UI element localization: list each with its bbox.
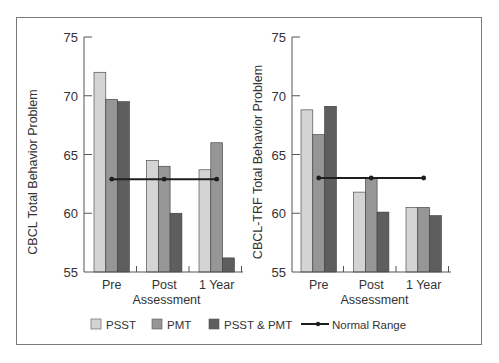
y-axis-title: CBCL-TRF Total Behavior Problem: [251, 65, 265, 259]
x-tick-label: Pre: [102, 278, 122, 292]
chart-legend: PSSTPMTPSST & PMTNormal Range: [91, 319, 406, 331]
bar-psst-pmt-pre: [325, 106, 337, 272]
y-tick-label: 65: [272, 148, 286, 163]
legend-swatch-psst: [91, 319, 101, 329]
normal-range-marker: [316, 176, 321, 181]
chart-panel-cbcl-trf: PrePost1 Year5560657075CBCL-TRF Total Be…: [251, 30, 451, 307]
bar-pmt-post: [158, 166, 170, 272]
legend-marker-icon: [316, 322, 320, 326]
x-tick-label: Post: [359, 278, 385, 292]
bar-psst-1-year: [199, 170, 211, 272]
bar-pmt-1-year: [418, 207, 430, 272]
bar-pmt-1-year: [211, 143, 223, 272]
bar-psst-post: [354, 192, 366, 272]
figure-svg: PrePost1 Year5560657075CBCL Total Behavi…: [0, 0, 499, 363]
chart-panel-cbcl: PrePost1 Year5560657075CBCL Total Behavi…: [26, 30, 243, 307]
bar-psst-pmt-post: [170, 213, 182, 272]
normal-range-marker: [162, 177, 167, 182]
y-tick-label: 70: [64, 89, 78, 104]
legend-label: Normal Range: [332, 319, 406, 331]
x-axis-title: Assessment: [340, 293, 409, 307]
bar-pmt-pre: [313, 135, 325, 272]
legend-swatch-pmt: [152, 319, 162, 329]
x-tick-label: 1 Year: [406, 278, 441, 292]
y-tick-label: 75: [64, 30, 78, 45]
y-tick-label: 70: [272, 89, 286, 104]
x-axis-title: Assessment: [132, 293, 201, 307]
bar-psst-pmt-1-year: [223, 258, 235, 272]
y-tick-label: 55: [272, 265, 286, 280]
bar-psst-pmt-1-year: [430, 216, 442, 272]
bar-psst-pmt-pre: [118, 102, 130, 272]
legend-label: PSST & PMT: [224, 319, 292, 331]
normal-range-marker: [369, 176, 374, 181]
legend-label: PMT: [167, 319, 191, 331]
normal-range-marker: [421, 176, 426, 181]
legend-label: PSST: [106, 319, 136, 331]
bar-psst-post: [147, 160, 159, 272]
y-tick-label: 60: [64, 206, 78, 221]
y-tick-label: 55: [64, 265, 78, 280]
legend-swatch-psst-pmt: [209, 319, 219, 329]
normal-range-marker: [109, 177, 114, 182]
y-tick-label: 75: [272, 30, 286, 45]
y-tick-label: 65: [64, 148, 78, 163]
x-tick-label: Post: [152, 278, 178, 292]
x-tick-label: 1 Year: [199, 278, 234, 292]
bar-psst-pre: [94, 72, 106, 272]
normal-range-marker: [214, 177, 219, 182]
bar-pmt-post: [365, 178, 377, 272]
x-tick-label: Pre: [309, 278, 329, 292]
y-axis-title: CBCL Total Behavior Problem: [26, 89, 40, 254]
y-tick-label: 60: [272, 206, 286, 221]
bar-psst-pre: [301, 110, 313, 272]
bar-psst-pmt-post: [377, 212, 389, 272]
bar-psst-1-year: [406, 207, 418, 272]
bar-pmt-pre: [106, 99, 118, 272]
